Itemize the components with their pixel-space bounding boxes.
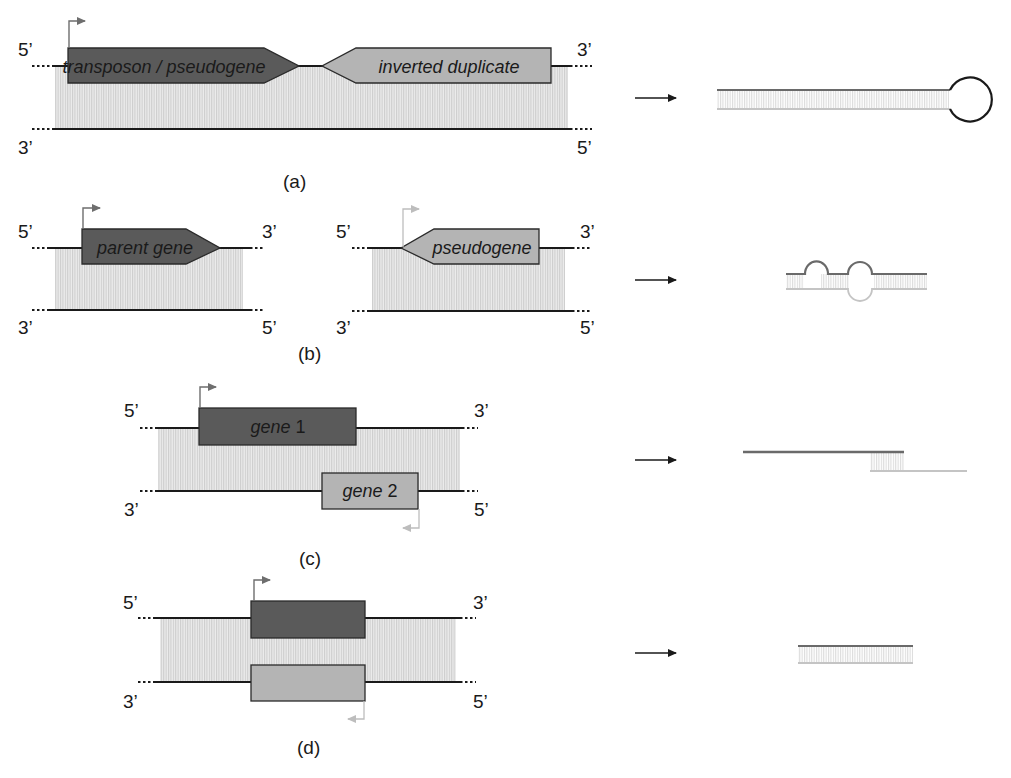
gene-label: inverted duplicate [378,57,519,77]
end-label-5prime: 5’ [473,691,488,712]
end-label-3prime: 3’ [18,317,33,338]
panel-a: transposon / pseudogene inverted duplica… [18,21,992,192]
end-label-5prime: 5’ [577,137,592,158]
gene-label: gene 1 [250,417,305,437]
gene-box-sense [251,601,365,638]
end-label-3prime: 3’ [18,137,33,158]
end-label-3prime: 3’ [123,691,138,712]
product-bulged-duplex [786,261,927,301]
promoter-arrow-icon [69,21,85,48]
gene-box-antisense [251,665,365,701]
product-hairpin [717,77,992,121]
figure-canvas: transposon / pseudogene inverted duplica… [0,0,1011,778]
end-label-5prime: 5’ [124,400,139,421]
end-label-5prime: 5’ [474,499,489,520]
panel-caption: (a) [283,171,306,192]
panel-b: parent gene 5’ 3’ 3’ 5’ pseudogene 5’ 3’… [18,208,927,364]
end-label-3prime: 3’ [580,221,595,242]
panel-d: 5’ 3’ 3’ 5’ (d) [123,580,913,758]
promoter-arrow-icon [254,580,270,601]
gene-label: parent gene [96,238,193,258]
panel-caption: (b) [298,343,321,364]
panel-caption: (c) [299,548,321,569]
gene-label: transposon / pseudogene [62,57,265,77]
end-label-3prime: 3’ [336,317,351,338]
promoter-arrow-icon [348,701,364,719]
promoter-arrow-icon [200,387,216,408]
end-label-3prime: 3’ [262,221,277,242]
end-label-3prime: 3’ [474,400,489,421]
end-label-3prime: 3’ [124,499,139,520]
gene-label: pseudogene [431,238,531,258]
promoter-arrow-icon [83,208,100,229]
end-label-3prime: 3’ [577,39,592,60]
panel-caption: (d) [297,737,320,758]
end-label-5prime: 5’ [18,39,33,60]
product-partial-duplex [743,452,967,471]
gene-label: gene 2 [342,481,397,501]
promoter-arrow-icon [403,509,419,528]
end-label-5prime: 5’ [262,317,277,338]
panel-c: gene 1 gene 2 5’ 3’ 3’ 5’ (c) [124,387,967,569]
end-label-5prime: 5’ [123,592,138,613]
end-label-5prime: 5’ [580,317,595,338]
end-label-3prime: 3’ [473,592,488,613]
product-full-duplex [798,646,913,663]
end-label-5prime: 5’ [18,221,33,242]
end-label-5prime: 5’ [336,221,351,242]
